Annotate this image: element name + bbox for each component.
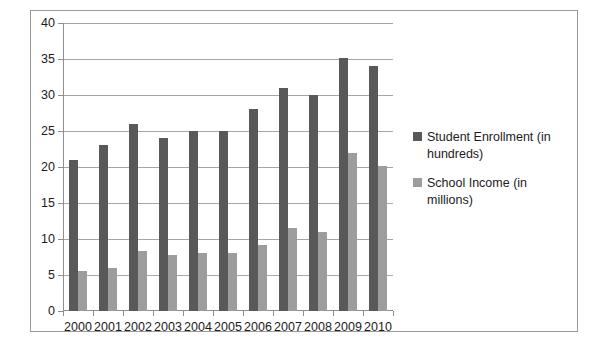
x-axis-tick-label: 2010 [364,320,392,334]
bar-group [153,23,183,311]
x-axis-tick-label: 2004 [184,320,212,334]
legend-swatch-icon [413,178,422,187]
y-axis-tick-label: 30 [41,88,55,102]
bar [288,228,297,311]
x-axis-tick-mark [273,311,274,316]
y-axis-tick-label: 10 [41,232,55,246]
bar [318,232,327,311]
x-axis-tick-label: 2001 [94,320,122,334]
x-axis-tick-mark [303,311,304,316]
bar-group [363,23,393,311]
x-axis-tick-mark [123,311,124,316]
bar [258,245,267,311]
bar [309,95,318,311]
bar [69,160,78,311]
y-axis-tick-label: 35 [41,52,55,66]
x-axis-tick-label: 2007 [274,320,302,334]
x-axis-tick-label: 2005 [214,320,242,334]
y-axis-tick-label: 40 [41,16,55,30]
x-axis-tick-mark [153,311,154,316]
x-axis-tick-mark [243,311,244,316]
chart-frame: 4035302520151050 20002001200220032004200… [30,10,578,332]
bar [138,251,147,311]
bar-group [243,23,273,311]
x-axis-tick-label: 2000 [64,320,92,334]
x-axis-tick-mark [183,311,184,316]
x-axis-tick-label: 2008 [304,320,332,334]
bar-group [183,23,213,311]
x-axis-tick-label: 2003 [154,320,182,334]
x-axis-tick-mark [93,311,94,316]
x-axis-tick-label: 2002 [124,320,152,334]
bar [279,88,288,311]
legend-item-label: Student Enrollment (in hundreds) [427,129,565,162]
x-axis-tick-label: 2006 [244,320,272,334]
x-axis-tick-mark [333,311,334,316]
bar [219,131,228,311]
legend-item[interactable]: Student Enrollment (in hundreds) [413,129,565,162]
bars-layer [63,23,393,311]
legend-item[interactable]: School Income (in millions) [413,175,565,208]
bar [78,271,87,311]
y-axis-tick-label: 15 [41,196,55,210]
x-axis-tick-mark [63,311,64,316]
bar [348,153,357,311]
bar [159,138,168,311]
bar [108,268,117,311]
bar [198,253,207,311]
bar-group [303,23,333,311]
legend-swatch-icon [413,132,422,141]
bar-group [273,23,303,311]
bar [99,145,108,311]
bar [228,253,237,311]
y-axis-tick-label: 0 [48,304,55,318]
bar [249,109,258,311]
bar-group [63,23,93,311]
bar-group [123,23,153,311]
chart-legend: Student Enrollment (in hundreds)School I… [413,129,565,221]
bar-group [213,23,243,311]
bar-group [93,23,123,311]
plot-area: 4035302520151050 20002001200220032004200… [63,23,393,311]
y-axis-tick-label: 20 [41,160,55,174]
legend-item-label: School Income (in millions) [427,175,565,208]
x-axis-tick-label: 2009 [334,320,362,334]
bar [378,166,387,311]
bar [129,124,138,311]
bar-group [333,23,363,311]
y-axis-tick-label: 5 [48,268,55,282]
bar [189,131,198,311]
chart-screenshot: 4035302520151050 20002001200220032004200… [0,0,596,347]
x-axis-tick-mark [213,311,214,316]
x-axis-tick-mark [363,311,364,316]
x-axis-tick-mark [393,311,394,316]
bar [339,58,348,311]
bar [369,66,378,311]
y-axis-tick-label: 25 [41,124,55,138]
bar [168,255,177,311]
